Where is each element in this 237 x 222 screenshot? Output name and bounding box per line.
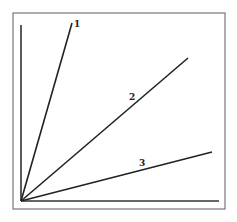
line-2-label: 2 [129,92,135,102]
line-3-label: 3 [139,158,145,168]
line-1 [21,23,72,201]
line-1-label: 1 [74,19,80,29]
diagram: 1 2 3 [0,0,237,222]
